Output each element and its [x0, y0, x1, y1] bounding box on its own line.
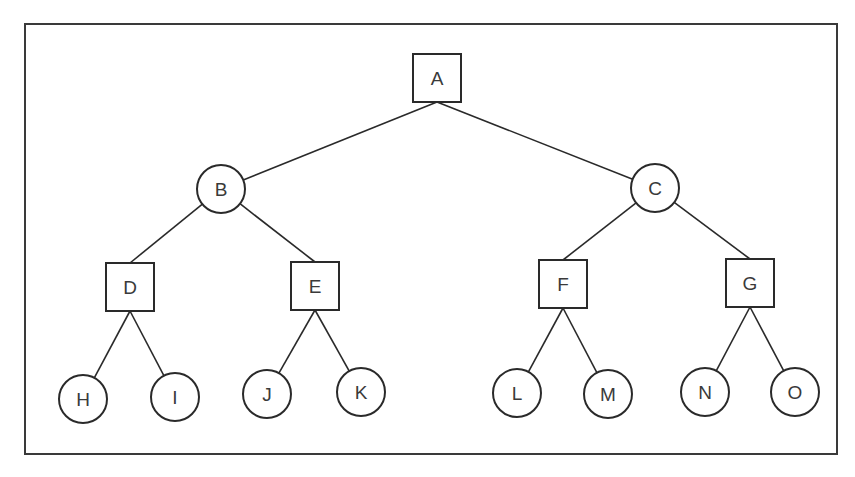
node-k: K: [337, 368, 385, 416]
node-label: J: [262, 384, 272, 405]
node-h: H: [59, 375, 107, 423]
node-l: L: [493, 369, 541, 417]
node-label: G: [743, 273, 758, 294]
node-label: O: [788, 382, 803, 403]
node-b: B: [197, 165, 245, 213]
edge-c-g: [674, 202, 750, 259]
node-label: M: [600, 384, 616, 405]
edge-c-f: [563, 203, 636, 260]
node-label: H: [76, 389, 90, 410]
node-label: F: [557, 274, 569, 295]
node-o: O: [771, 368, 819, 416]
node-j: J: [243, 370, 291, 418]
game-tree-diagram: ABCDEFGHIJKLMNO: [0, 0, 855, 477]
node-label: E: [309, 276, 322, 297]
figure-caption: [27, 468, 527, 477]
node-label: K: [355, 382, 368, 403]
node-n: N: [681, 368, 729, 416]
edge-a-b: [243, 102, 437, 180]
node-label: I: [172, 387, 177, 408]
node-e: E: [291, 262, 339, 310]
edge-g-n: [716, 307, 750, 371]
tree-edges: [94, 102, 783, 378]
edge-e-j: [279, 310, 315, 373]
edge-a-c: [437, 102, 633, 179]
node-i: I: [151, 373, 199, 421]
node-a: A: [413, 54, 461, 102]
node-label: C: [648, 178, 662, 199]
edge-f-m: [563, 308, 597, 373]
tree-nodes: ABCDEFGHIJKLMNO: [59, 54, 819, 423]
edge-f-l: [528, 308, 563, 372]
edge-b-d: [130, 204, 202, 263]
edge-d-i: [130, 311, 164, 376]
node-label: B: [215, 179, 228, 200]
node-label: L: [512, 383, 523, 404]
node-c: C: [631, 164, 679, 212]
node-g: G: [726, 259, 774, 307]
node-label: A: [431, 68, 444, 89]
edge-b-e: [240, 204, 315, 262]
edge-e-k: [315, 310, 349, 371]
node-d: D: [106, 263, 154, 311]
edge-d-h: [94, 311, 130, 378]
node-label: D: [123, 277, 137, 298]
node-label: N: [698, 382, 712, 403]
node-f: F: [539, 260, 587, 308]
node-m: M: [584, 370, 632, 418]
edge-g-o: [750, 307, 784, 371]
